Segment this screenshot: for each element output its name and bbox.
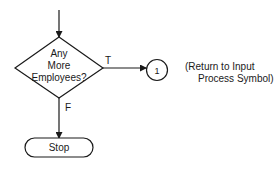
decision-label-line2: More [48, 60, 71, 71]
decision-node: Any More Employees? [15, 37, 103, 98]
decision-label-line1: Any [50, 48, 67, 59]
annotation-line2: Process Symbol) [198, 73, 274, 84]
stop-label: Stop [49, 142, 70, 153]
annotation-line1: (Return to Input [185, 61, 255, 72]
decision-label-line3: Employees? [31, 72, 86, 83]
stop-node: Stop [25, 138, 93, 157]
connector-node: 1 [147, 60, 168, 81]
true-label: T [105, 55, 111, 66]
flowchart-canvas: Any More Employees? T 1 (Return to Input… [0, 0, 279, 172]
connector-label: 1 [154, 66, 159, 76]
false-label: F [65, 102, 71, 113]
